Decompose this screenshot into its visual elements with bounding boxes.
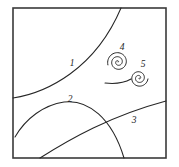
curve-label-3: 3 [131, 115, 137, 125]
curve-label-2: 2 [68, 94, 73, 104]
curve-label-5: 5 [141, 59, 146, 69]
figure-frame-border [13, 8, 166, 158]
figure-container: 12345 [0, 0, 179, 167]
curve-label-1: 1 [70, 58, 75, 68]
curve-label-4: 4 [120, 42, 125, 52]
phase-portrait-figure: 12345 [0, 0, 179, 167]
